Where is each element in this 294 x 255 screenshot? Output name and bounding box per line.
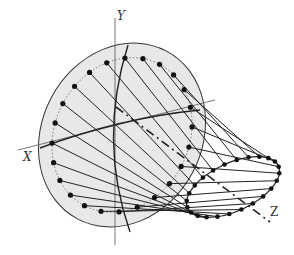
oblique-plane	[7, 14, 237, 255]
z-axis-label: Z	[270, 205, 278, 219]
y-axis-label: Y	[117, 9, 125, 23]
x-axis-label: X	[23, 150, 32, 164]
projection-diagram	[0, 0, 294, 255]
